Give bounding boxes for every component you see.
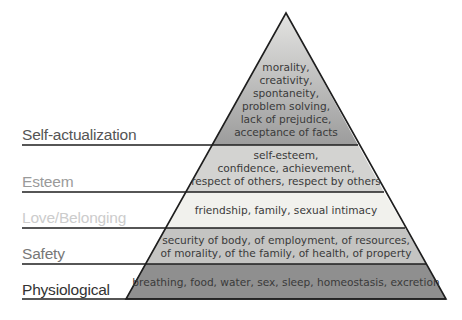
- text-physiological: breathing, food, water, sex, sleep, home…: [130, 276, 442, 289]
- label-esteem: Esteem: [22, 173, 73, 191]
- text-esteem: self-esteem, confidence, achievement, re…: [186, 149, 386, 188]
- text-self-actualization: morality, creativity, spontaneity, probl…: [206, 61, 366, 139]
- text-safety: security of body, of employment, of reso…: [150, 234, 422, 260]
- label-physiological: Physiological: [22, 281, 110, 299]
- label-love-belonging: Love/Belonging: [22, 209, 126, 227]
- label-safety: Safety: [22, 245, 65, 263]
- text-love-belonging: friendship, family, sexual intimacy: [170, 204, 402, 217]
- label-self-actualization: Self-actualization: [22, 126, 136, 144]
